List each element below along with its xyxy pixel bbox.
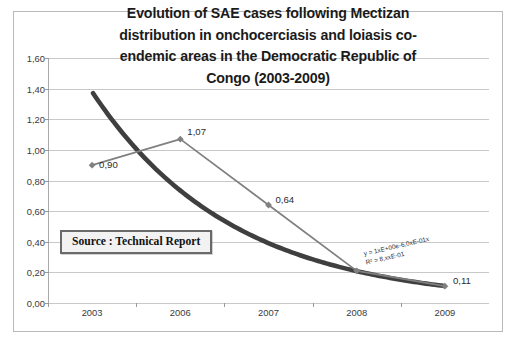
source-note-box: Source : Technical Report (60, 230, 212, 254)
y-axis-tick-mark (44, 58, 49, 59)
data-point-label: 1,07 (187, 126, 206, 137)
x-axis-tick-mark (401, 303, 402, 307)
data-point-label: 0,64 (276, 194, 295, 205)
data-point-label: 0,11 (453, 275, 471, 286)
x-axis-tick-mark (136, 303, 137, 307)
y-axis-tick-mark (44, 242, 49, 243)
y-axis-tick-mark (44, 119, 49, 120)
y-axis-tick-mark (44, 181, 49, 182)
y-axis-tick-mark (44, 150, 49, 151)
series-plot (0, 0, 516, 350)
x-axis-tick-mark (48, 303, 49, 307)
data-point-label: 0,90 (99, 159, 118, 170)
series-data-point (89, 162, 96, 169)
x-axis-tick-mark (313, 303, 314, 307)
y-axis-tick-mark (44, 89, 49, 90)
chart-root: Evolution of SAE cases following Mectiza… (0, 0, 516, 350)
y-axis-tick-mark (44, 272, 49, 273)
x-axis-tick-mark (224, 303, 225, 307)
y-axis-tick-mark (44, 211, 49, 212)
